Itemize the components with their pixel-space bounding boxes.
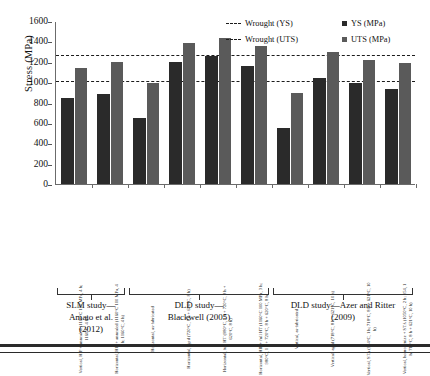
- bar-ys[interactable]: [385, 89, 398, 184]
- y-tick-mark: [48, 63, 52, 64]
- bar-uts[interactable]: [291, 93, 304, 184]
- y-tick-mark: [48, 185, 52, 186]
- bar-group: [97, 22, 123, 184]
- dashed-line-icon: [226, 23, 241, 24]
- group-bracket: [57, 288, 125, 295]
- group-bracket: [129, 288, 269, 295]
- bar-uts[interactable]: [363, 60, 376, 184]
- bar-uts[interactable]: [255, 46, 268, 184]
- bar-uts[interactable]: [327, 52, 340, 184]
- legend-item-uts: UTS (MPa): [342, 35, 390, 44]
- bar-ys[interactable]: [313, 78, 326, 184]
- legend-label: YS (MPa): [351, 19, 385, 28]
- square-marker-icon: [342, 37, 347, 42]
- legend-label: Wrought (UTS): [245, 35, 298, 44]
- y-tick-label: 1000: [14, 78, 48, 88]
- chart-legend: Wrought (YS) YS (MPa) Wrought (UTS) UTS …: [226, 16, 426, 50]
- y-tick-mark: [48, 104, 52, 105]
- legend-label: UTS (MPa): [351, 35, 390, 44]
- y-tick-label: 0: [14, 180, 48, 190]
- bar-ys[interactable]: [241, 66, 254, 184]
- legend-label: Wrought (YS): [245, 19, 293, 28]
- x-tick-mark: [416, 184, 417, 188]
- bar-group: [61, 22, 87, 184]
- bar-ys[interactable]: [97, 94, 110, 184]
- y-tick-label: 1400: [14, 38, 48, 48]
- bar-uts[interactable]: [183, 43, 196, 184]
- bar-group: [169, 22, 195, 184]
- square-marker-icon: [342, 21, 347, 26]
- bar-ys[interactable]: [349, 83, 362, 184]
- group-caption: DLD study—Azer and Ritter(2009): [273, 300, 413, 324]
- bar-uts[interactable]: [111, 62, 124, 184]
- y-tick-mark: [48, 83, 52, 84]
- x-axis-category-labels: Vertical, HIP + annealed (1160°C 100 MPa…: [55, 188, 415, 284]
- legend-item-wrought-uts: Wrought (UTS): [226, 35, 298, 44]
- y-tick-label: 1200: [14, 58, 48, 68]
- y-tick-label: 600: [14, 119, 48, 129]
- bar-uts[interactable]: [147, 83, 160, 184]
- bar-ys[interactable]: [277, 128, 290, 184]
- bottom-rule-thin: [0, 352, 430, 353]
- group-caption: SLM study—Amato et al.(2012): [43, 300, 139, 336]
- y-tick-mark: [48, 165, 52, 166]
- y-tick-mark: [48, 124, 52, 125]
- legend-item-wrought-ys: Wrought (YS): [226, 19, 293, 28]
- bar-uts[interactable]: [219, 38, 232, 184]
- y-tick-mark: [48, 144, 52, 145]
- bottom-rule-thick: [0, 344, 430, 347]
- bar-uts[interactable]: [399, 63, 412, 184]
- group-bracket: [273, 288, 413, 295]
- y-tick-label: 1600: [14, 17, 48, 27]
- group-caption: DLD study—Blackwell (2005): [129, 300, 269, 324]
- group-captions: SLM study—Amato et al.(2012)DLD study—Bl…: [55, 300, 415, 350]
- bar-ys[interactable]: [61, 98, 74, 184]
- bar-uts[interactable]: [75, 68, 88, 184]
- y-tick-mark: [48, 22, 52, 23]
- bar-ys[interactable]: [205, 56, 218, 184]
- bar-ys[interactable]: [169, 62, 182, 184]
- bar-ys[interactable]: [133, 118, 146, 184]
- y-tick-label: 200: [14, 160, 48, 170]
- bar-group: [133, 22, 159, 184]
- legend-item-ys: YS (MPa): [342, 19, 385, 28]
- y-tick-label: 800: [14, 99, 48, 109]
- dashed-line-icon: [226, 39, 241, 40]
- y-tick-mark: [48, 42, 52, 43]
- y-tick-label: 400: [14, 140, 48, 150]
